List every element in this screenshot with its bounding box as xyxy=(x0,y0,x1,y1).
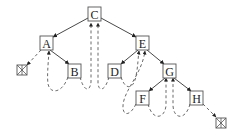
thread-D-C xyxy=(98,23,109,89)
node-label-A: A xyxy=(42,37,51,51)
node-F: F xyxy=(136,91,149,106)
node-label-F: F xyxy=(139,92,146,106)
node-E: E xyxy=(136,36,149,51)
thread-A-null-left xyxy=(27,50,41,65)
threaded-binary-tree-diagram: C A E B D G F H xyxy=(0,0,238,136)
node-H: H xyxy=(190,91,203,106)
null-marker-right-icon xyxy=(216,118,226,128)
node-label-G: G xyxy=(165,65,174,79)
edge-C-E xyxy=(101,18,136,37)
node-label-B: B xyxy=(70,65,78,79)
thread-B-C xyxy=(80,23,91,89)
thread-H-null-right xyxy=(203,104,216,117)
node-D: D xyxy=(108,64,121,79)
tree-edges xyxy=(50,18,191,91)
edge-G-H xyxy=(174,78,191,91)
edge-E-D xyxy=(121,50,138,64)
node-A: A xyxy=(40,36,53,51)
edge-E-G xyxy=(147,50,164,64)
null-marker-left-icon xyxy=(17,65,27,75)
node-G: G xyxy=(163,64,176,79)
thread-B-A xyxy=(48,51,68,91)
edge-G-F xyxy=(149,78,165,91)
node-label-D: D xyxy=(110,65,119,79)
thread-F-G xyxy=(148,78,166,116)
node-label-E: E xyxy=(139,37,146,51)
node-C: C xyxy=(88,7,101,22)
node-B: B xyxy=(68,64,81,79)
edge-C-A xyxy=(53,18,88,37)
node-label-C: C xyxy=(90,8,98,22)
thread-edges xyxy=(27,23,216,117)
node-label-H: H xyxy=(192,92,201,106)
edge-A-B xyxy=(50,50,69,64)
